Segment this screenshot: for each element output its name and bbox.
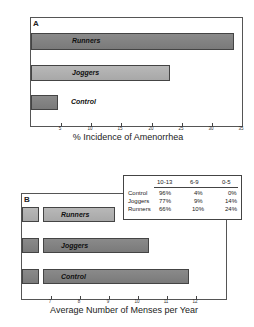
bar-label-joggers: Joggers: [72, 69, 99, 76]
table-header-6-9: 6-9: [190, 179, 199, 185]
tick-label-a-20: 20: [148, 126, 153, 131]
bar-runners-b: Runners: [43, 207, 115, 222]
tick-label-a-5: 5: [59, 126, 62, 131]
tick-label-a-35: 35: [238, 126, 243, 131]
table-row-control-c2: 4%: [194, 190, 203, 196]
bar-label-joggers-b: Joggers: [61, 242, 88, 249]
tick-label-a-10: 10: [87, 126, 92, 131]
panel-a-letter: A: [33, 19, 39, 28]
x-axis-title-b: Average Number of Menses per Year: [50, 305, 198, 315]
table-row-runners-c1: 66%: [159, 206, 171, 212]
table-header-10-13: 10-13: [157, 179, 172, 185]
tick-label-b-10: 10: [134, 299, 139, 304]
tick-label-a-30: 30: [208, 126, 213, 131]
table-row-joggers-c1: 77%: [159, 198, 171, 204]
bar-control-b: Control: [43, 269, 189, 284]
tick-label-b-9: 9: [107, 299, 110, 304]
bar-control-a: [31, 95, 58, 110]
table-row-runners-name: Runners: [128, 206, 151, 212]
table-row-runners-c3: 24%: [225, 206, 237, 212]
bar-joggers-a: Joggers: [31, 65, 170, 81]
table-row-runners-c2: 10%: [192, 206, 204, 212]
table-row-joggers-c2: 9%: [194, 198, 203, 204]
x-axis-title-a: % Incidence of Amenorrhea: [73, 132, 184, 142]
panel-a-plot-area: A Runners Joggers Control: [30, 17, 243, 127]
bar-label-runners: Runners: [72, 37, 100, 44]
table-row-joggers-name: Joggers: [128, 198, 149, 204]
tick-label-b-8: 8: [78, 299, 81, 304]
bar-runners-b-stub: [22, 207, 39, 222]
tick-label-b-11: 11: [164, 299, 169, 304]
bar-label-control: Control: [71, 98, 96, 105]
panel-b-letter: B: [24, 195, 30, 204]
bar-control-b-stub: [22, 269, 39, 284]
tick-label-a-25: 25: [178, 126, 183, 131]
bar-joggers-b: Joggers: [43, 238, 149, 253]
bar-label-runners-b: Runners: [61, 211, 89, 218]
bar-runners-a: Runners: [31, 33, 234, 50]
menses-distribution-table: 10-13 6-9 0-5 Control 96% 4% 0% Joggers …: [123, 175, 242, 220]
tick-label-b-7: 7: [49, 299, 52, 304]
table-header-0-5: 0-5: [222, 179, 231, 185]
table-row-control-c1: 96%: [159, 190, 171, 196]
tick-label-a-15: 15: [117, 126, 122, 131]
table-row-joggers-c3: 14%: [225, 198, 237, 204]
tick-label-b-12: 12: [192, 299, 197, 304]
bar-label-control-b: Control: [61, 273, 86, 280]
table-header-rule: [154, 187, 238, 188]
table-row-control-name: Control: [128, 190, 147, 196]
bar-joggers-b-stub: [22, 238, 39, 253]
table-row-control-c3: 0%: [228, 190, 237, 196]
